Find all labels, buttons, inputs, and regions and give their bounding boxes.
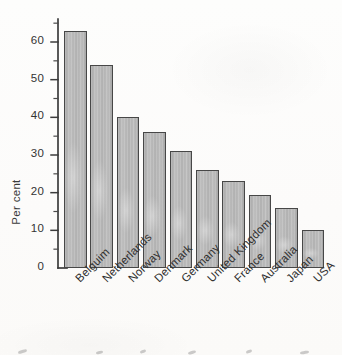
y-tick-label: 0 bbox=[18, 260, 44, 272]
bar bbox=[64, 31, 87, 268]
y-tick-label: 40 bbox=[18, 109, 44, 121]
plot-area: Per cent 0102030405060 BelguimNetherland… bbox=[0, 0, 342, 355]
y-tick-label: 30 bbox=[18, 147, 44, 159]
y-tick-label: 60 bbox=[18, 34, 44, 46]
y-tick-label: 10 bbox=[18, 222, 44, 234]
y-tick-label: 50 bbox=[18, 72, 44, 84]
bar bbox=[90, 65, 113, 268]
chart-figure: Per cent 0102030405060 BelguimNetherland… bbox=[0, 0, 342, 355]
y-tick-label: 20 bbox=[18, 185, 44, 197]
